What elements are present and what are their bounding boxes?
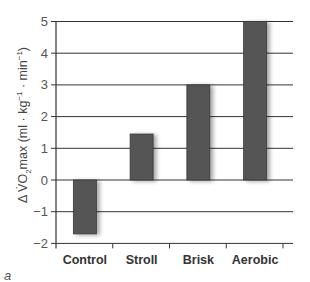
y-tick-label: 2 (41, 109, 48, 124)
bar-stroll (130, 134, 153, 180)
y-tick-labels: −2−1012345 (33, 14, 48, 251)
panel-letter: a (4, 268, 11, 282)
bar-control (73, 180, 96, 234)
bar-chart: −2−1012345 ControlStrollBriskAerobic (0, 0, 310, 282)
x-tick-label: Brisk (183, 253, 214, 267)
bar-brisk (187, 85, 210, 180)
x-tick-label: Aerobic (232, 253, 279, 267)
x-tick-label: Control (63, 253, 107, 267)
y-tick-label: 1 (41, 141, 48, 156)
y-tick-label: 3 (41, 77, 48, 92)
x-tick-labels: ControlStrollBriskAerobic (63, 253, 279, 267)
y-tick-label: 4 (41, 46, 48, 61)
y-axis-label: Δ V̇O2max (ml · kg−1 · min−1) (15, 47, 33, 203)
y-tick-label: 0 (41, 173, 48, 188)
y-tick-label: −1 (33, 204, 48, 219)
y-tick-label: 5 (41, 14, 48, 29)
y-tick-label: −2 (33, 236, 48, 251)
bar-aerobic (244, 22, 267, 181)
x-tick-label: Stroll (126, 253, 158, 267)
